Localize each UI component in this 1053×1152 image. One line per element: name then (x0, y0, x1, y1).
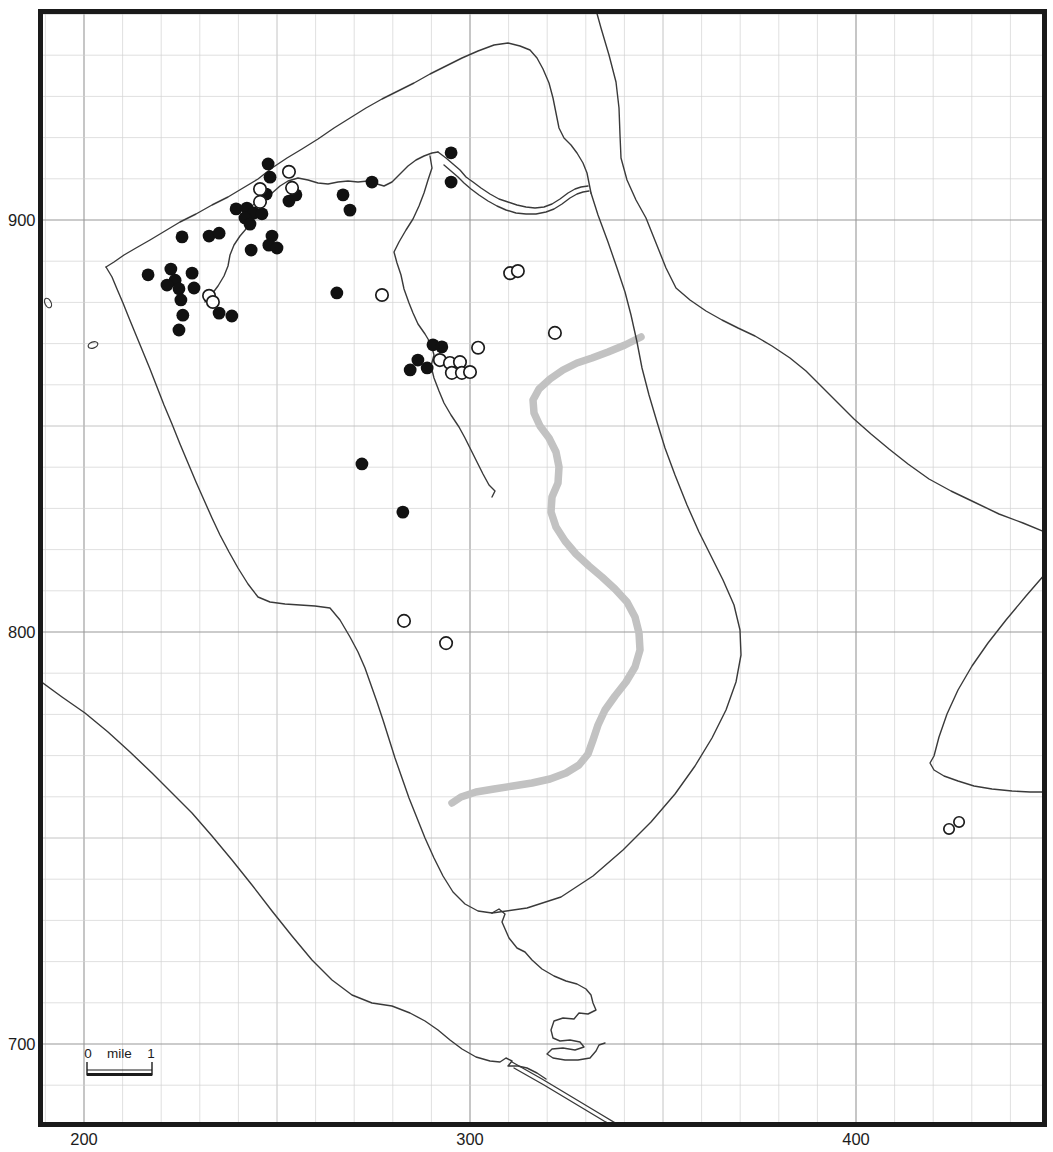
site-marker-filled (445, 176, 458, 189)
site-marker-open (286, 182, 298, 194)
distribution-map-figure: 9008007002003004000mile1 (0, 0, 1053, 1152)
y-axis-tick-label: 800 (8, 623, 36, 641)
site-marker-open (254, 196, 266, 208)
site-marker-filled (188, 282, 201, 295)
map-canvas: 9008007002003004000mile1 (0, 0, 1053, 1152)
x-axis-tick-label: 200 (70, 1130, 98, 1148)
site-marker-open (512, 265, 524, 277)
site-marker-filled (396, 506, 409, 519)
site-marker-open (549, 327, 561, 339)
site-marker-open (376, 289, 388, 301)
scale-bar-zero-label: 0 (84, 1046, 92, 1061)
site-marker-filled (262, 158, 275, 171)
site-marker-filled (337, 188, 350, 201)
site-marker-filled (256, 207, 269, 220)
site-marker-filled (176, 230, 189, 243)
paper-background (0, 0, 1053, 1152)
site-marker-open (398, 615, 410, 627)
site-marker-filled (356, 458, 369, 471)
y-axis-tick-label: 900 (8, 211, 36, 229)
scale-bar-unit-label: mile (107, 1046, 132, 1061)
site-marker-open (472, 342, 484, 354)
site-marker-filled (186, 267, 199, 280)
site-marker-filled (245, 244, 258, 257)
y-axis-tick-label: 700 (8, 1035, 36, 1053)
site-marker-filled (173, 282, 186, 295)
x-axis-tick-label: 300 (456, 1130, 484, 1148)
site-marker-filled (142, 268, 155, 281)
x-axis-tick-label: 400 (842, 1130, 870, 1148)
site-marker-filled (225, 310, 238, 323)
site-marker-filled (161, 279, 174, 292)
site-marker-filled (366, 176, 379, 189)
site-marker-open (944, 824, 954, 834)
site-marker-filled (435, 340, 448, 353)
site-marker-filled (174, 294, 187, 307)
site-marker-filled (244, 218, 257, 231)
site-marker-open (440, 637, 452, 649)
site-marker-filled (164, 263, 177, 276)
site-marker-filled (213, 227, 226, 240)
site-marker-open (954, 817, 964, 827)
site-marker-filled (330, 287, 343, 300)
site-marker-filled (173, 324, 186, 337)
site-marker-open (283, 166, 295, 178)
site-marker-filled (421, 362, 434, 375)
scale-bar-one-label: 1 (147, 1046, 155, 1061)
site-marker-open (254, 183, 266, 195)
site-marker-open (207, 296, 219, 308)
site-marker-filled (271, 242, 284, 255)
site-marker-open (464, 366, 476, 378)
site-marker-filled (264, 171, 277, 184)
site-marker-filled (404, 364, 417, 377)
site-marker-filled (176, 309, 189, 322)
site-marker-filled (445, 146, 458, 159)
site-marker-filled (344, 204, 357, 217)
